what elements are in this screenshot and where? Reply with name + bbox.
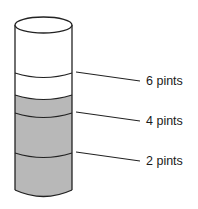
- mark-6-pints: [15, 73, 72, 78]
- label-4-pints: 4 pints: [146, 114, 183, 128]
- cylinder-diagram: [0, 0, 198, 209]
- label-2-pints: 2 pints: [146, 154, 183, 168]
- label-6-pints: 6 pints: [146, 74, 183, 88]
- cylinder-top: [15, 17, 72, 33]
- liquid-fill: [15, 95, 72, 197]
- leader-2-pints: [76, 152, 140, 161]
- leader-4-pints: [76, 112, 140, 121]
- leader-6-pints: [76, 72, 140, 81]
